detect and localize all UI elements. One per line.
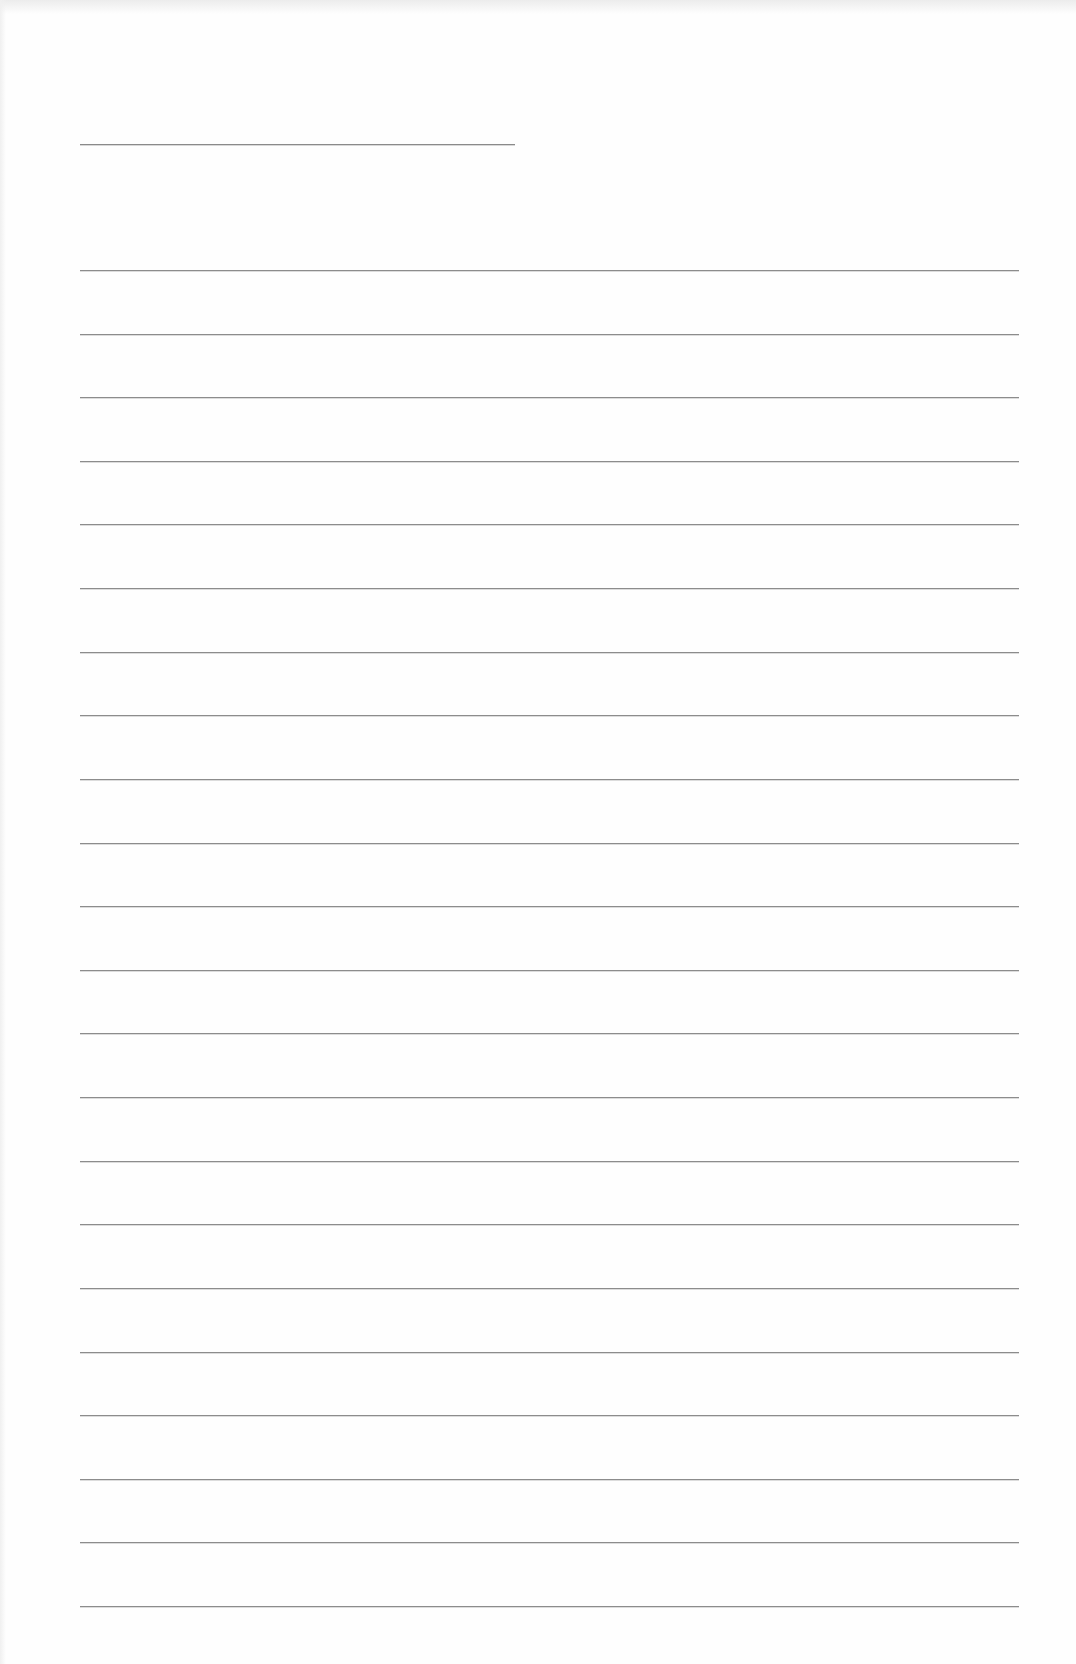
- page-left-shadow: [0, 0, 6, 1664]
- ruled-line: [80, 1224, 1019, 1226]
- ruled-line: [80, 1606, 1019, 1608]
- ruled-line: [80, 588, 1019, 590]
- ruled-line: [80, 715, 1019, 717]
- ruled-line: [80, 334, 1019, 336]
- lined-paper-page: [0, 0, 1076, 1664]
- ruled-line: [80, 397, 1019, 399]
- ruled-line: [80, 1415, 1019, 1417]
- ruled-line: [80, 652, 1019, 654]
- ruled-line: [80, 970, 1019, 972]
- ruled-line: [80, 779, 1019, 781]
- ruled-line: [80, 1352, 1019, 1354]
- ruled-line: [80, 843, 1019, 845]
- ruled-line: [80, 524, 1019, 526]
- ruled-line: [80, 1033, 1019, 1035]
- ruled-line: [80, 906, 1019, 908]
- ruled-line: [80, 1542, 1019, 1544]
- ruled-line: [80, 461, 1019, 463]
- ruled-line: [80, 1161, 1019, 1163]
- ruled-line: [80, 1288, 1019, 1290]
- ruled-line: [80, 1479, 1019, 1481]
- ruled-line: [80, 270, 1019, 272]
- ruled-line: [80, 1097, 1019, 1099]
- page-top-shadow: [0, 0, 1076, 14]
- header-line: [80, 144, 515, 146]
